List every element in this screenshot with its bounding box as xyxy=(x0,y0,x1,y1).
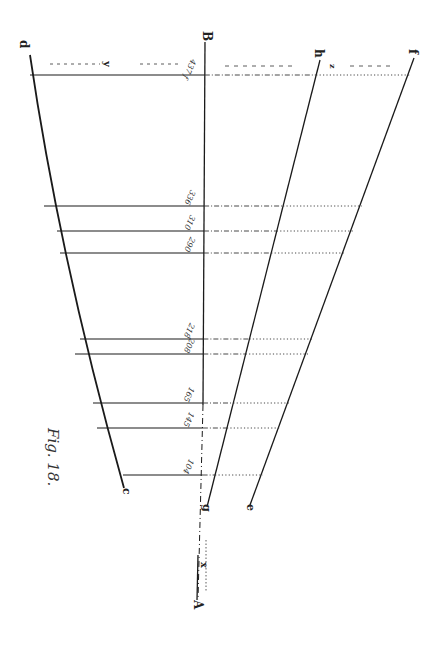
label-d: d xyxy=(17,40,31,49)
figure-title: Fig. 18. xyxy=(44,427,62,486)
label-b: B xyxy=(200,31,214,41)
line-ef xyxy=(250,58,414,505)
label-f: f xyxy=(406,49,420,55)
ordinate-label: 165 xyxy=(181,386,196,404)
label-g: g xyxy=(200,504,213,512)
curve-cd xyxy=(30,55,124,488)
ordinate-label: 290 xyxy=(182,235,197,254)
label-c: c xyxy=(120,488,133,495)
label-y: y xyxy=(102,60,113,68)
figure-diagram: 437 f336310290218208165145104 B d h f c … xyxy=(0,0,440,652)
label-e: e xyxy=(244,504,257,511)
ordinate-label: 437 f xyxy=(180,57,198,82)
label-z: z xyxy=(328,64,338,69)
ordinate-label: 310 xyxy=(182,214,197,232)
ordinate-label: 145 xyxy=(181,411,196,429)
line-gh xyxy=(207,60,320,507)
label-h: h xyxy=(312,49,326,58)
ordinate-label: 104 xyxy=(181,458,196,476)
label-a: A xyxy=(191,599,205,610)
ordinate-label: 336 xyxy=(182,189,197,207)
axis-ab-dashed xyxy=(198,405,203,600)
label-x: x xyxy=(199,562,210,569)
axis-ab-end xyxy=(197,555,198,600)
ordinates: 437 f336310290218208165145104 xyxy=(30,57,410,476)
axis-ab xyxy=(203,42,205,405)
